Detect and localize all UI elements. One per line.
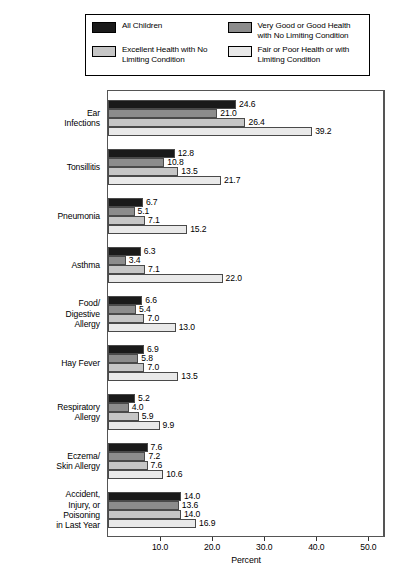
bar-groups: EarInfections24.621.026.439.2Tonsillitis… <box>0 90 407 537</box>
bar[interactable] <box>108 256 126 265</box>
bar-value-label: 3.4 <box>129 255 141 265</box>
bar[interactable] <box>108 461 148 470</box>
x-axis: Percent 10.020.030.040.050.0 <box>107 537 385 583</box>
category-label: Hay Fever <box>0 358 100 368</box>
bar-group: Hay Fever6.95.87.013.5 <box>0 345 407 381</box>
legend-item[interactable]: Excellent Health with No Limiting Condit… <box>92 45 228 64</box>
legend-swatch-icon <box>228 46 252 57</box>
bar-value-label: 14.0 <box>184 509 200 519</box>
bar-row: 13.5 <box>108 167 407 176</box>
bar[interactable] <box>108 354 138 363</box>
legend-item-label: All Children <box>122 21 162 31</box>
bar-row: 39.2 <box>108 127 407 136</box>
bar[interactable] <box>108 225 187 234</box>
bar-row: 7.0 <box>108 314 407 323</box>
category-label-line: Skin Allergy <box>0 461 100 471</box>
bar-value-label: 7.6 <box>151 460 163 470</box>
x-axis-tick-label: 30.0 <box>256 542 272 552</box>
category-label: Asthma <box>0 260 100 270</box>
x-axis-label: Percent <box>107 555 385 565</box>
bar-row: 7.1 <box>108 216 407 225</box>
bar-value-label: 22.0 <box>226 273 242 283</box>
bar[interactable] <box>108 296 142 305</box>
bar-value-label: 9.9 <box>163 420 175 430</box>
bar-row: 22.0 <box>108 274 407 283</box>
legend-item[interactable]: All Children <box>92 21 228 40</box>
bar[interactable] <box>108 305 136 314</box>
bar-value-label: 5.9 <box>142 411 154 421</box>
category-label-line: Allergy <box>0 319 100 329</box>
bar[interactable] <box>108 100 236 109</box>
bar-row: 24.6 <box>108 100 407 109</box>
bar-value-label: 39.2 <box>315 126 331 136</box>
bar-value-label: 7.1 <box>148 215 160 225</box>
bar-value-label: 13.5 <box>181 371 197 381</box>
bar-row: 5.9 <box>108 412 407 421</box>
bar-row: 6.7 <box>108 198 407 207</box>
bar[interactable] <box>108 176 221 185</box>
bar-row: 7.1 <box>108 265 407 274</box>
bar[interactable] <box>108 118 245 127</box>
category-label-line: Respiratory <box>0 402 100 412</box>
bar[interactable] <box>108 519 196 528</box>
bar-group: Pneumonia6.75.17.115.2 <box>0 198 407 234</box>
bar-group: EarInfections24.621.026.439.2 <box>0 100 407 136</box>
category-label: RespiratoryAllergy <box>0 402 100 423</box>
bar-row: 15.2 <box>108 225 407 234</box>
bar[interactable] <box>108 127 312 136</box>
bar[interactable] <box>108 443 148 452</box>
bar[interactable] <box>108 452 145 461</box>
legend-swatch-icon <box>92 46 116 57</box>
bar[interactable] <box>108 501 179 510</box>
bar[interactable] <box>108 265 145 274</box>
x-axis-tick <box>368 537 369 541</box>
category-label-line: Allergy <box>0 412 100 422</box>
bar-value-label: 13.5 <box>181 166 197 176</box>
bar[interactable] <box>108 470 163 479</box>
bar-row: 10.6 <box>108 470 407 479</box>
legend-swatch-icon <box>228 22 252 33</box>
bar-group: Eczema/Skin Allergy7.67.27.610.6 <box>0 443 407 479</box>
bar[interactable] <box>108 158 164 167</box>
legend-item[interactable]: Very Good or Good Health with No Limitin… <box>228 21 364 40</box>
bar[interactable] <box>108 372 178 381</box>
category-label-line: Infections <box>0 118 100 128</box>
category-label: Food/DigestiveAllergy <box>0 298 100 329</box>
bar-row: 12.8 <box>108 149 407 158</box>
bar[interactable] <box>108 510 181 519</box>
category-label-line: Hay Fever <box>0 358 100 368</box>
bar[interactable] <box>108 207 135 216</box>
legend-items: All ChildrenVery Good or Good Health wit… <box>92 21 363 69</box>
bar-row: 14.0 <box>108 510 407 519</box>
category-label-line: Tonsillitis <box>0 162 100 172</box>
bar[interactable] <box>108 345 144 354</box>
bar-value-label: 24.6 <box>239 99 255 109</box>
legend-item-label: Excellent Health with No Limiting Condit… <box>122 45 228 64</box>
category-label: Pneumonia <box>0 211 100 221</box>
bar[interactable] <box>108 421 160 430</box>
bar-value-label: 16.9 <box>199 518 215 528</box>
bar[interactable] <box>108 323 176 332</box>
bar[interactable] <box>108 403 129 412</box>
bar[interactable] <box>108 109 217 118</box>
bar-value-label: 21.0 <box>220 108 236 118</box>
bar[interactable] <box>108 492 181 501</box>
bar-row: 5.2 <box>108 394 407 403</box>
bar[interactable] <box>108 314 144 323</box>
bar[interactable] <box>108 412 139 421</box>
bar[interactable] <box>108 274 223 283</box>
bar-group: Food/DigestiveAllergy6.65.47.013.0 <box>0 296 407 332</box>
legend-item[interactable]: Fair or Poor Health or with Limiting Con… <box>228 45 364 64</box>
bar-row: 21.7 <box>108 176 407 185</box>
category-label: Accident,Injury, orPoisoningin Last Year <box>0 489 100 531</box>
x-axis-tick <box>316 537 317 541</box>
category-label-line: Food/ <box>0 298 100 308</box>
chart-legend: All ChildrenVery Good or Good Health wit… <box>85 14 370 76</box>
x-axis-tick-label: 40.0 <box>308 542 324 552</box>
x-axis-tick <box>264 537 265 541</box>
bar[interactable] <box>108 216 145 225</box>
category-label-line: in Last Year <box>0 520 100 530</box>
bar[interactable] <box>108 149 175 158</box>
bar[interactable] <box>108 167 178 176</box>
bar[interactable] <box>108 363 144 372</box>
